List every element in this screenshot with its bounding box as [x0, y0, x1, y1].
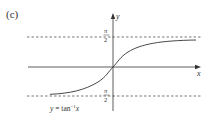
lower-asymptote-label: π 2	[99, 87, 110, 103]
upper-asymptote-label: π 2	[104, 27, 110, 43]
arctan-graph: (c) x y π 2 π 2 y = tan−1x	[0, 0, 214, 118]
svg-text:π: π	[104, 87, 108, 94]
y-axis-label: y	[115, 12, 120, 21]
svg-text:2: 2	[104, 36, 107, 43]
panel-label: (c)	[6, 8, 19, 21]
x-axis-label: x	[196, 69, 201, 78]
curve-label: y = tan−1x	[49, 104, 80, 113]
y-axis-arrow-icon	[111, 13, 115, 19]
svg-text:2: 2	[104, 96, 107, 103]
svg-text:π: π	[104, 27, 108, 34]
